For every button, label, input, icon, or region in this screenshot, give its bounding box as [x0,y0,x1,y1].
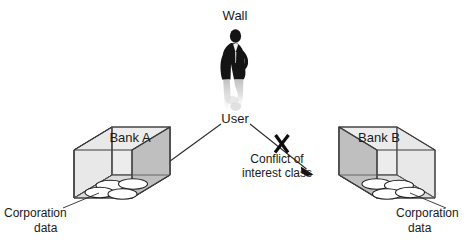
user-label: User [221,111,249,126]
bank-b-label: Bank B [358,130,400,145]
bank-b-data-label-line1: Corporation [396,206,459,220]
conflict-class-label-line1: Conflict of [250,152,304,166]
person-silhouette-icon [221,29,249,111]
wall-label: Wall [223,8,248,23]
bank-b-data-label-line2: data [408,221,432,235]
conflict-class-label-line2: interest class [242,166,312,180]
bank-a-data-label-line2: data [34,221,58,235]
bank-a-label: Bank A [109,130,151,145]
bank-a-data-label-line1: Corporation [4,206,67,220]
chinese-wall-diagram: Wall User [0,0,471,248]
bank-b-box: Bank B [339,127,435,199]
bank-a-box: Bank A [74,127,170,199]
